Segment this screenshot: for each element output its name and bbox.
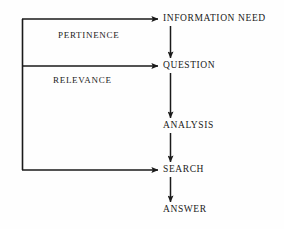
edge-label-pertinence: PERTINENCE <box>58 30 119 41</box>
flow-diagram: INFORMATION NEED QUESTION ANALYSIS SEARC… <box>0 0 284 229</box>
diagram-canvas <box>0 0 284 229</box>
node-search: SEARCH <box>163 164 204 175</box>
node-answer: ANSWER <box>163 204 207 215</box>
node-information-need: INFORMATION NEED <box>163 13 266 24</box>
node-question: QUESTION <box>163 60 215 71</box>
edge-label-relevance: RELEVANCE <box>53 75 112 86</box>
node-analysis: ANALYSIS <box>163 120 214 131</box>
